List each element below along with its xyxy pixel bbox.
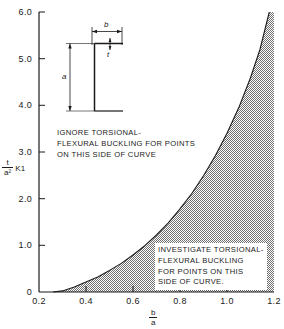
annotation-investigate-line: INVESTIGATE TORSIONAL- bbox=[158, 245, 264, 256]
y-axis-title-denominator: a² bbox=[2, 168, 13, 177]
inset-label-b: b bbox=[104, 20, 108, 29]
inset-label-a: a bbox=[62, 72, 66, 81]
annotation-ignore-line: FLEXURAL BUCKLING FOR POINTS bbox=[57, 139, 195, 150]
y-axis-title: t a² K1 bbox=[2, 159, 25, 178]
x-tick-label: 0.6 bbox=[120, 296, 146, 307]
y-tick-label: 4.0 bbox=[6, 100, 32, 111]
y-axis-title-suffix: K1 bbox=[15, 164, 25, 173]
y-axis-ticks bbox=[39, 12, 45, 245]
x-tick-label: 0.8 bbox=[167, 296, 193, 307]
x-axis-title-denominator: a bbox=[149, 318, 157, 327]
x-tick-label: 1.0 bbox=[214, 296, 240, 307]
y-tick-label: 5.0 bbox=[6, 54, 32, 65]
annotation-investigate-line: SIDE OF CURVE. bbox=[158, 277, 264, 288]
annotation-ignore-line: IGNORE TORSIONAL- bbox=[57, 128, 195, 139]
x-tick-label: 0.2 bbox=[26, 296, 52, 307]
y-tick-label: 3.0 bbox=[6, 147, 32, 158]
x-axis-title-numerator: b bbox=[149, 309, 157, 318]
y-tick-label: 1.0 bbox=[6, 240, 32, 251]
annotation-ignore: IGNORE TORSIONAL- FLEXURAL BUCKLING FOR … bbox=[57, 128, 195, 160]
annotation-investigate-line: FOR POINTS ON THIS bbox=[158, 267, 264, 278]
y-tick-label: 2.0 bbox=[6, 194, 32, 205]
x-axis-title: b a bbox=[149, 309, 157, 328]
y-axis-title-numerator: t bbox=[2, 159, 13, 168]
x-tick-label: 1.2 bbox=[261, 296, 284, 307]
annotation-ignore-line: ON THIS SIDE OF CURVE bbox=[57, 150, 195, 161]
inset-angle-section bbox=[66, 27, 123, 111]
annotation-investigate: INVESTIGATE TORSIONAL- FLEXURAL BUCKLING… bbox=[155, 243, 267, 290]
inset-label-t: t bbox=[107, 50, 109, 59]
annotation-investigate-line: FLEXURAL BUCKLING bbox=[158, 256, 264, 267]
x-tick-label: 0.4 bbox=[73, 296, 99, 307]
y-tick-label: 6.0 bbox=[6, 7, 32, 18]
